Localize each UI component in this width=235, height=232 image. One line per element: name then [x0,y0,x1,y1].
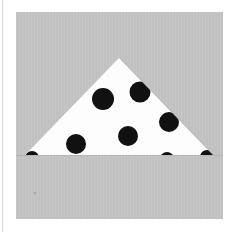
polka-dot [130,82,151,103]
speck [34,192,36,194]
polka-dot [92,88,114,110]
polka-dot [160,152,174,166]
polka-dot [118,126,138,146]
fabric-triangle [25,58,213,155]
polka-dot-fabric-triangle [0,0,235,232]
polka-dot [66,134,86,154]
polka-dot [159,112,179,132]
polka-dot [200,150,214,164]
polka-dot [25,151,39,165]
